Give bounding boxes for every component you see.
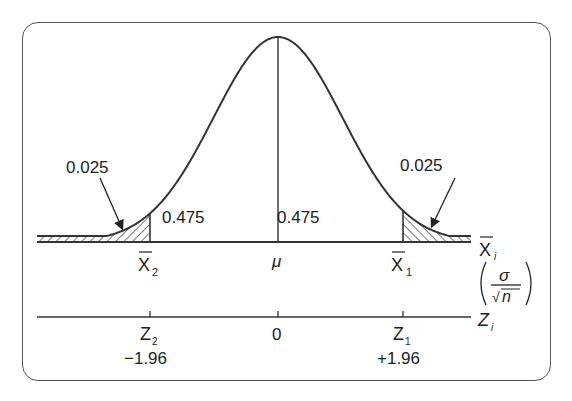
left-center-area-label: 0.475	[162, 208, 205, 227]
svg-text:√: √	[492, 289, 500, 305]
z1-value: +1.96	[377, 349, 420, 368]
svg-text:i: i	[494, 251, 497, 262]
z2-value: −1.96	[124, 349, 167, 368]
left-tail-area-label: 0.025	[66, 158, 109, 177]
mu-label: μ	[271, 252, 282, 271]
scale-factor-sigma-over-root-n: σ √ n	[481, 262, 531, 305]
right-center-area-label: 0.475	[277, 208, 320, 227]
z0-label: 0	[272, 325, 281, 344]
svg-text:σ: σ	[499, 266, 510, 285]
svg-text:Z: Z	[477, 310, 490, 330]
bell-curve	[37, 37, 471, 236]
left-tail-region	[37, 213, 150, 242]
xbar-axis-label: X i	[479, 237, 497, 262]
svg-text:Z: Z	[140, 324, 151, 344]
left-tail-arrow	[100, 178, 122, 228]
svg-text:X: X	[479, 240, 491, 260]
z2-label: Z 2	[140, 324, 158, 347]
z1-label: Z 1	[393, 324, 411, 347]
normal-curve-diagram: 0.025 0.025 0.475 0.475 X 2 μ X 1 X i σ …	[0, 0, 572, 401]
xbar1-label: X 1	[391, 252, 412, 278]
svg-text:X: X	[391, 255, 403, 275]
z-axis-label: Z i	[477, 310, 494, 333]
svg-text:Z: Z	[393, 324, 404, 344]
xbar2-label: X 2	[138, 252, 158, 278]
svg-text:X: X	[138, 255, 150, 275]
svg-text:2: 2	[152, 266, 158, 278]
svg-text:1: 1	[405, 336, 411, 347]
right-tail-arrow	[432, 178, 455, 226]
right-tail-area-label: 0.025	[400, 156, 443, 175]
svg-text:i: i	[491, 322, 494, 333]
svg-text:n: n	[502, 288, 511, 305]
svg-text:2: 2	[152, 336, 158, 347]
svg-text:1: 1	[406, 266, 412, 278]
